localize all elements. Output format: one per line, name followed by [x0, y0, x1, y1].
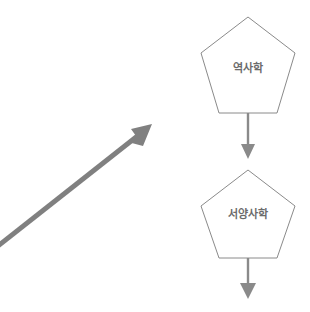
node-western-history[interactable]: 서양사학 — [201, 170, 295, 258]
big-diagonal-arrow-head — [128, 124, 152, 146]
big-diagonal-arrow-shaft — [0, 134, 140, 246]
node-history[interactable]: 역사학 — [201, 17, 295, 113]
big-diagonal-arrow — [0, 124, 152, 246]
connector-history-to-western-arrowhead — [241, 144, 255, 159]
connector-history-to-western — [241, 113, 255, 159]
node-history-label: 역사학 — [233, 61, 264, 75]
connector-western-outgoing — [240, 258, 256, 299]
node-western-history-label: 서양사학 — [228, 207, 269, 221]
connector-western-outgoing-arrowhead — [240, 283, 256, 299]
diagram-canvas: 역사학 서양사학 — [0, 0, 310, 312]
